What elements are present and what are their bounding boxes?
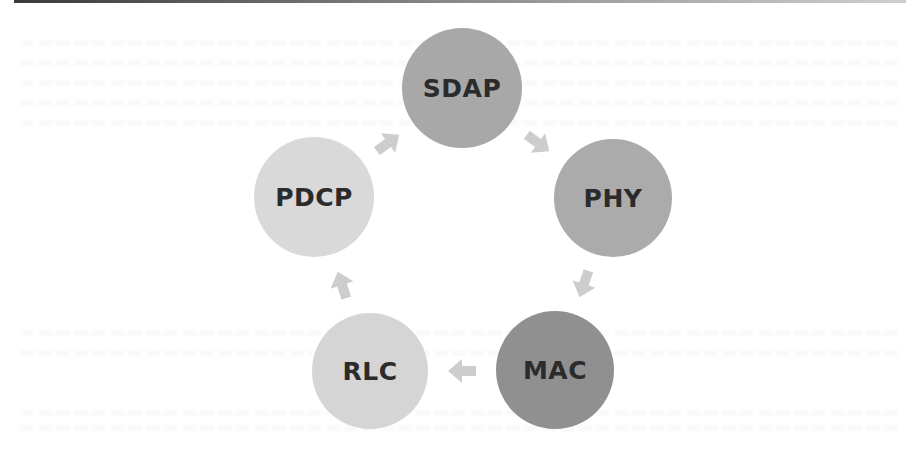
node-label-pdcp: PDCP: [275, 183, 353, 212]
node-pdcp: PDCP: [254, 137, 374, 257]
node-mac: MAC: [496, 311, 614, 429]
protocol-cycle-diagram: SDAP PHY MAC RLC PDCP: [0, 0, 919, 456]
arrow-right-icon: [520, 125, 557, 161]
arrow-right-icon: [370, 125, 407, 161]
node-label-sdap: SDAP: [423, 74, 501, 103]
arrow-right-icon: [568, 267, 600, 301]
node-label-phy: PHY: [584, 184, 643, 213]
arrow-right-icon: [327, 268, 358, 302]
node-rlc: RLC: [312, 313, 428, 429]
arrow-right-icon: [448, 358, 476, 382]
node-label-rlc: RLC: [342, 357, 397, 386]
node-label-mac: MAC: [523, 356, 587, 385]
node-sdap: SDAP: [402, 28, 522, 148]
node-phy: PHY: [554, 139, 672, 257]
